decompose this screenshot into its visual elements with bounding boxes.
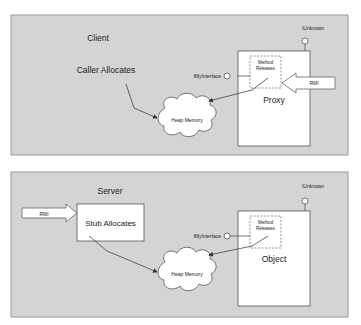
imyinterface-label: IMyInterface: [193, 73, 221, 79]
proxy-label: Proxy: [263, 95, 285, 105]
method-label: Method: [258, 220, 274, 225]
caller-allocates-label: Caller Allocates: [77, 65, 136, 75]
server-title: Server: [97, 186, 122, 196]
heap-memory-cloud: Heap Memory: [158, 247, 216, 290]
imyinterface-label: IMyInterface: [193, 233, 221, 239]
heap-memory-label: Heap Memory: [171, 117, 203, 123]
client-panel: Client Caller Allocates Heap Memory Prox…: [11, 15, 348, 155]
server-panel: Server RMI Stub Allocates Heap Memory Ob…: [11, 172, 348, 317]
iunknown-lollipop-icon: [302, 198, 308, 204]
imyinterface-lollipop-icon: [224, 233, 230, 239]
iunknown-lollipop-icon: [302, 38, 308, 44]
releases-label: Releases: [256, 66, 276, 71]
rmi-label: RMI: [39, 211, 48, 217]
stub-allocates-label: Stub Allocates: [85, 219, 136, 228]
iunknown-label: IUnknown: [302, 25, 324, 31]
iunknown-label: IUnknown: [302, 183, 324, 189]
releases-label: Releases: [256, 226, 276, 231]
method-label: Method: [258, 60, 274, 65]
object-label: Object: [262, 254, 287, 264]
rmi-label: RMI: [309, 80, 318, 86]
com-memory-diagram: Client Caller Allocates Heap Memory Prox…: [0, 0, 361, 325]
heap-memory-cloud: Heap Memory: [158, 93, 216, 136]
heap-memory-label: Heap Memory: [171, 271, 203, 277]
imyinterface-lollipop-icon: [224, 73, 230, 79]
client-title: Client: [87, 33, 109, 43]
